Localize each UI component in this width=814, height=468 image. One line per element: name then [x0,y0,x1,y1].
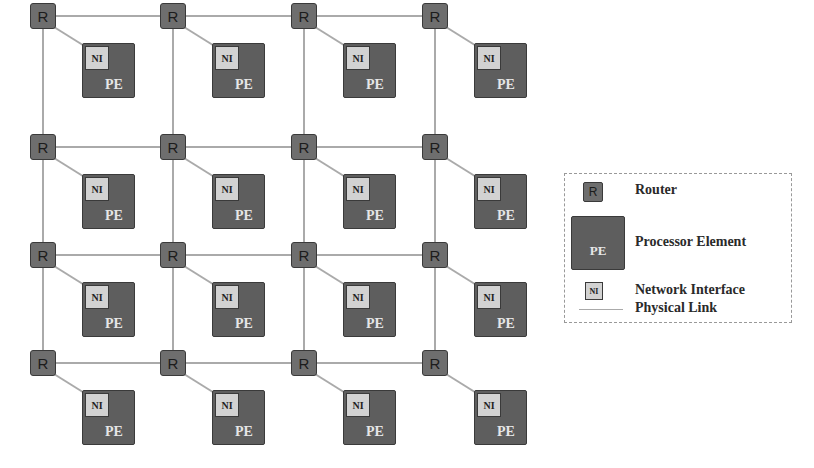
processor-element: NIPE [343,390,396,445]
network-interface-icon: NI [585,282,603,300]
router: R [30,3,56,29]
pe-label: PE [366,77,384,93]
network-interface: NI [346,177,370,201]
pe-label: PE [235,208,253,224]
network-interface: NI [85,285,109,309]
processor-element: NIPE [82,390,135,445]
processor-element: NIPE [474,282,527,337]
pe-label: PE [497,77,515,93]
processor-element: NIPE [474,43,527,98]
router: R [422,3,448,29]
pe-label: PE [366,208,384,224]
network-interface: NI [477,285,501,309]
pe-label: PE [497,316,515,332]
router: R [160,134,186,160]
legend-label-router: Router [635,182,677,198]
processor-element-icon: PE [571,216,625,270]
pe-label: PE [497,424,515,440]
router: R [160,242,186,268]
pe-label: PE [497,208,515,224]
network-interface: NI [215,177,239,201]
processor-element: NIPE [212,174,265,229]
router: R [160,350,186,376]
processor-element: NIPE [474,390,527,445]
pe-label: PE [105,424,123,440]
mesh-noc-diagram: RNIPERNIPERNIPERNIPERNIPERNIPERNIPERNIPE… [0,0,814,468]
network-interface: NI [85,177,109,201]
processor-element: NIPE [82,174,135,229]
pe-label: PE [366,316,384,332]
pe-label: PE [366,424,384,440]
network-interface: NI [215,46,239,70]
router: R [291,350,317,376]
processor-element: NIPE [82,282,135,337]
router: R [30,350,56,376]
legend-label-network-interface: Network Interface [635,282,745,298]
network-interface: NI [477,393,501,417]
processor-element: NIPE [343,43,396,98]
processor-element: NIPE [82,43,135,98]
physical-link-icon [579,309,623,310]
pe-label: PE [105,316,123,332]
network-interface: NI [477,177,501,201]
processor-element: NIPE [474,174,527,229]
network-interface: NI [215,285,239,309]
router: R [422,242,448,268]
router: R [30,134,56,160]
router: R [160,3,186,29]
legend-label-processor-element: Processor Element [635,234,746,250]
network-interface: NI [85,46,109,70]
router: R [422,134,448,160]
legend-label-physical-link: Physical Link [635,300,717,316]
processor-element: NIPE [212,390,265,445]
router: R [291,3,317,29]
pe-label: PE [235,424,253,440]
network-interface: NI [215,393,239,417]
legend: R Router PE Processor Element NI Network… [564,173,792,323]
router: R [291,242,317,268]
router: R [422,350,448,376]
network-interface: NI [346,393,370,417]
pe-label: PE [105,77,123,93]
network-interface: NI [346,46,370,70]
pe-label: PE [105,208,123,224]
processor-element: NIPE [212,43,265,98]
processor-element: NIPE [343,282,396,337]
processor-element: NIPE [343,174,396,229]
network-interface: NI [85,393,109,417]
processor-element: NIPE [212,282,265,337]
pe-label: PE [235,77,253,93]
router: R [30,242,56,268]
network-interface: NI [477,46,501,70]
pe-label: PE [235,316,253,332]
router: R [291,134,317,160]
router-icon: R [583,182,603,202]
network-interface: NI [346,285,370,309]
